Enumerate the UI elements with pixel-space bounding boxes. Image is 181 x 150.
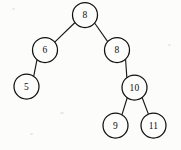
edge-six-to-five (34, 60, 37, 76)
edge-root-to-right (95, 23, 109, 42)
edge-ten-to-eleven (142, 97, 149, 114)
edge-ten-to-nine (122, 98, 127, 115)
node-label: 8 (83, 10, 88, 20)
tree-node-leaf-9[interactable]: 9 (103, 113, 128, 138)
edge-eight-to-ten (126, 60, 127, 79)
tree-node-right-8[interactable]: 8 (105, 38, 130, 63)
node-label: 9 (113, 121, 118, 131)
node-label: 8 (115, 45, 120, 55)
tree-node-leaf-5[interactable]: 5 (14, 74, 39, 99)
node-layer: 8 6 8 5 10 9 (14, 3, 166, 139)
tree-diagram-canvas: 8 6 8 5 10 9 (0, 0, 181, 150)
tree-node-10[interactable]: 10 (122, 75, 147, 100)
edge-layer (34, 23, 149, 115)
edge-root-to-left (54, 23, 75, 43)
tree-node-leaf-11[interactable]: 11 (141, 113, 166, 138)
tree-node-left-6[interactable]: 6 (33, 38, 58, 63)
tree-node-root[interactable]: 8 (73, 3, 98, 28)
node-label: 6 (43, 45, 48, 55)
node-label: 5 (24, 82, 29, 92)
binary-search-tree: 8 6 8 5 10 9 (0, 0, 181, 150)
node-label: 11 (149, 121, 159, 131)
node-label: 10 (130, 83, 140, 93)
